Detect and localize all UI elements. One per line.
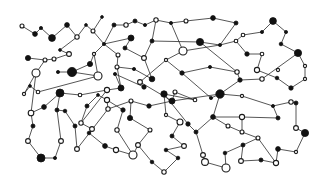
filled-node-icon (209, 96, 212, 99)
graph-edge (130, 118, 150, 130)
hollow-node-icon (201, 153, 206, 158)
graph-edge (93, 31, 104, 44)
filled-node-icon (161, 91, 167, 97)
hollow-node-icon (239, 159, 244, 164)
hollow-node-icon (26, 139, 31, 144)
filled-node-icon (143, 23, 146, 26)
filled-node-icon (33, 32, 38, 37)
hollow-node-icon (179, 47, 187, 55)
graph-edge (213, 18, 236, 23)
hollow-node-icon (294, 150, 297, 153)
graph-edge (80, 90, 107, 95)
hollow-node-icon (294, 126, 299, 131)
graph-edge (257, 70, 277, 78)
hollow-node-icon (116, 53, 120, 57)
filled-node-icon (97, 94, 100, 97)
graph-edge (149, 101, 172, 106)
filled-node-icon (63, 109, 67, 113)
filled-node-icon (25, 55, 30, 60)
filled-node-icon (39, 26, 42, 29)
network-graph-canvas (0, 0, 328, 179)
filled-node-icon (279, 42, 283, 46)
hollow-node-icon (90, 127, 95, 132)
hollow-node-icon (164, 113, 167, 116)
graph-edge (242, 96, 273, 106)
filled-node-icon (128, 35, 134, 41)
hollow-node-icon (94, 72, 102, 80)
hollow-node-icon (177, 119, 183, 125)
hollow-node-icon (303, 64, 306, 67)
filled-node-icon (37, 154, 45, 162)
filled-node-icon (164, 148, 168, 152)
hollow-node-icon (142, 56, 147, 61)
hollow-node-icon (173, 90, 177, 94)
hollow-node-icon (129, 151, 137, 159)
hollow-node-icon (303, 77, 306, 80)
filled-node-icon (284, 30, 287, 33)
hollow-node-icon (28, 110, 34, 116)
graph-edge (183, 45, 220, 51)
graph-edge (104, 38, 131, 44)
hollow-node-icon (226, 124, 230, 128)
hollow-node-icon (32, 69, 40, 77)
filled-node-icon (121, 108, 125, 112)
filled-node-icon (223, 151, 227, 155)
graph-edge (31, 73, 36, 113)
filled-node-icon (49, 35, 56, 42)
hollow-node-icon (136, 143, 141, 148)
hollow-node-icon (59, 139, 64, 144)
graph-edge (125, 48, 144, 58)
graph-edge (89, 133, 105, 146)
filled-node-icon (276, 116, 280, 120)
graph-edge (210, 67, 237, 72)
filled-node-icon (275, 76, 279, 80)
filled-node-icon (150, 39, 154, 43)
filled-node-icon (29, 85, 32, 88)
graph-edge (240, 79, 262, 80)
filled-node-icon (211, 16, 216, 21)
hollow-node-icon (104, 97, 109, 102)
filled-node-icon (87, 61, 92, 66)
filled-node-icon (149, 76, 155, 82)
hollow-node-icon (20, 24, 24, 28)
node-layer (20, 16, 309, 175)
filled-node-icon (147, 104, 151, 108)
hollow-node-icon (239, 114, 244, 119)
filled-node-icon (56, 89, 64, 97)
hollow-node-icon (240, 94, 243, 97)
filled-node-icon (67, 67, 76, 76)
hollow-node-icon (182, 144, 187, 149)
graph-edge (138, 145, 152, 162)
filled-node-icon (59, 49, 62, 52)
filled-node-icon (211, 115, 216, 120)
filled-node-icon (31, 124, 35, 128)
graph-edge (182, 67, 210, 73)
filled-node-icon (260, 30, 263, 33)
graph-edge (243, 32, 262, 35)
filled-node-icon (169, 21, 172, 24)
hollow-node-icon (273, 160, 278, 165)
graph-edge (196, 132, 203, 155)
hollow-node-icon (115, 65, 119, 69)
graph-edge (144, 58, 152, 79)
filled-node-icon (101, 16, 104, 19)
filled-node-icon (196, 38, 203, 45)
filled-node-icon (87, 131, 91, 135)
filled-node-icon (216, 90, 224, 98)
hollow-node-icon (115, 128, 119, 132)
filled-node-icon (73, 124, 77, 128)
hollow-node-icon (154, 18, 158, 22)
hollow-node-icon (75, 147, 80, 152)
graph-edge (117, 67, 134, 69)
hollow-node-icon (113, 147, 118, 152)
filled-node-icon (42, 105, 47, 110)
graph-edge (104, 44, 118, 55)
filled-node-icon (123, 46, 127, 50)
filled-node-icon (142, 85, 146, 89)
graph-edge (166, 60, 182, 73)
filled-node-icon (218, 43, 221, 46)
hollow-node-icon (67, 52, 72, 57)
graph-edge (57, 110, 61, 141)
filled-node-icon (150, 160, 154, 164)
hollow-node-icon (129, 99, 133, 103)
